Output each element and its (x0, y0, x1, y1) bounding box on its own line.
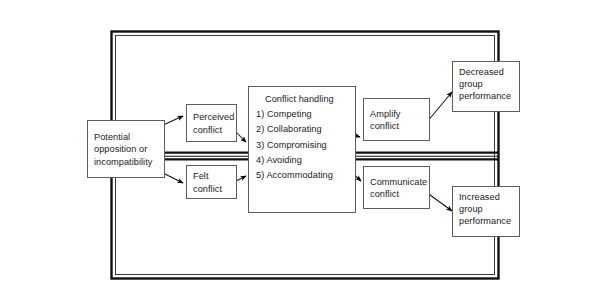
node-communicate-line-1: Communicate (370, 176, 424, 188)
node-perceived-line-2: conflict (193, 124, 231, 136)
conflict-handling-option-3[interactable]: 3) Compromising (256, 138, 349, 153)
node-increased-line-3: performance (459, 215, 514, 227)
option-1-label: Competing (267, 109, 312, 119)
option-4-number: 4) (256, 155, 264, 165)
option-2-number: 2) (256, 124, 264, 134)
option-5-number: 5) (256, 170, 264, 180)
option-3-label: Compromising (267, 140, 327, 150)
diagram-canvas: Potential opposition or incompatibility … (0, 0, 598, 294)
node-amplify-line-2: conflict (370, 120, 424, 132)
node-amplify-conflict[interactable]: Amplify conflict (363, 98, 430, 141)
node-communicate-line-2: conflict (370, 188, 424, 200)
node-communicate-conflict[interactable]: Communicate conflict (363, 166, 430, 209)
node-increased-line-2: group (459, 203, 514, 215)
edge-amplify-to-decreased (427, 92, 452, 122)
conflict-handling-option-4[interactable]: 4) Avoiding (256, 153, 349, 168)
node-potential-line-3: incompatibility (94, 156, 159, 168)
node-amplify-line-1: Amplify (370, 108, 424, 120)
option-4-label: Avoiding (266, 155, 301, 165)
node-decreased-line-1: Decreased (459, 66, 514, 78)
option-1-number: 1) (256, 109, 264, 119)
node-potential-line-1: Potential (94, 131, 159, 143)
node-felt-line-2: conflict (193, 183, 231, 195)
node-felt-line-1: Felt (193, 170, 231, 182)
conflict-handling-option-5[interactable]: 5) Accommodating (256, 168, 349, 183)
node-conflict-handling[interactable]: Conflict handling 1) Competing 2) Collab… (248, 86, 356, 213)
option-5-label: Accommodating (266, 170, 333, 180)
option-2-label: Collaborating (267, 124, 322, 134)
node-increased-line-1: Increased (459, 191, 514, 203)
node-decreased-group-performance[interactable]: Decreased group performance (452, 61, 520, 112)
node-potential-line-2: opposition or (94, 143, 159, 155)
option-3-number: 3) (256, 140, 264, 150)
conflict-handling-option-2[interactable]: 2) Collaborating (256, 122, 349, 137)
node-increased-group-performance[interactable]: Increased group performance (452, 186, 520, 237)
conflict-handling-option-1[interactable]: 1) Competing (256, 107, 349, 122)
node-decreased-line-3: performance (459, 90, 514, 102)
conflict-handling-title: Conflict handling (265, 93, 349, 105)
conflict-handling-options-list: 1) Competing 2) Collaborating 3) Comprom… (256, 107, 349, 183)
node-potential-opposition[interactable]: Potential opposition or incompatibility (87, 120, 165, 178)
node-perceived-line-1: Perceived (193, 111, 231, 123)
node-felt-conflict[interactable]: Felt conflict (186, 165, 237, 199)
node-perceived-conflict[interactable]: Perceived conflict (186, 104, 237, 142)
node-decreased-line-2: group (459, 78, 514, 90)
